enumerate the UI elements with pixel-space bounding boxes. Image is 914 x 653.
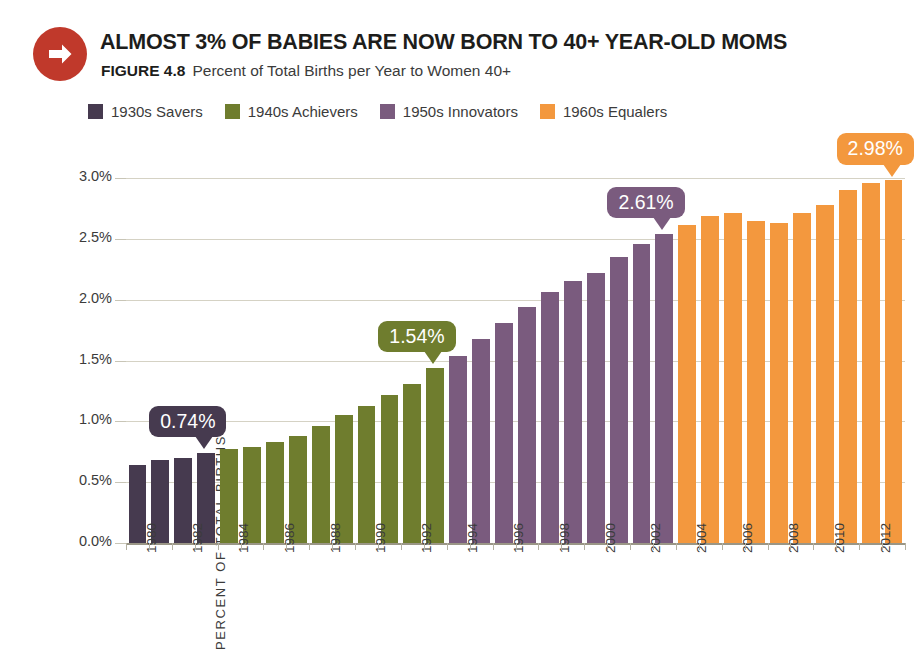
y-tick-mark	[115, 543, 126, 544]
bar[interactable]	[449, 356, 467, 543]
y-tick-label: 1.5%	[79, 351, 112, 367]
x-tick-label: 1988	[328, 523, 343, 553]
x-tick-mark	[172, 543, 173, 550]
legend-label: 1950s Innovators	[403, 103, 518, 120]
x-tick-mark	[722, 543, 723, 550]
x-tick-label: 2010	[832, 523, 847, 553]
bar[interactable]	[655, 234, 673, 543]
bar[interactable]	[701, 216, 719, 543]
callout-tail-icon	[883, 164, 901, 177]
page-title: ALMOST 3% OF BABIES ARE NOW BORN TO 40+ …	[100, 30, 787, 55]
x-tick-label: 1980	[144, 523, 159, 553]
x-tick-label: 1990	[373, 523, 388, 553]
bar[interactable]	[724, 213, 742, 543]
x-tick-label: 1992	[419, 523, 434, 553]
x-tick-mark	[676, 543, 677, 550]
x-axis: 1980198219841986198819901992199419961998…	[126, 543, 905, 586]
y-axis-tick-labels: 0.0%0.5%1.0%1.5%2.0%2.5%3.0%	[40, 178, 112, 543]
x-tick-mark	[630, 543, 631, 550]
y-tick-label: 3.0%	[79, 168, 112, 184]
bar[interactable]	[587, 273, 605, 543]
bar[interactable]	[541, 292, 559, 543]
bar[interactable]	[381, 395, 399, 543]
x-tick-mark	[561, 543, 562, 550]
x-tick-mark	[149, 543, 150, 550]
y-tick-label: 2.5%	[79, 229, 112, 245]
x-tick-label: 1984	[236, 523, 251, 553]
legend-label: 1940s Achievers	[248, 103, 358, 120]
callout-tail-icon	[195, 436, 213, 449]
chart-legend: 1930s Savers1940s Achievers1950s Innovat…	[88, 103, 667, 120]
x-tick-label: 1996	[511, 523, 526, 553]
bar-series	[126, 178, 905, 543]
bar[interactable]	[885, 180, 903, 543]
x-tick-mark	[836, 543, 837, 550]
bar[interactable]	[610, 257, 628, 543]
callout-tail-icon	[653, 217, 671, 230]
bar[interactable]	[518, 307, 536, 543]
x-tick-mark	[332, 543, 333, 550]
x-tick-mark	[286, 543, 287, 550]
value-callout: 1.54%	[378, 321, 455, 352]
bar[interactable]	[678, 225, 696, 543]
x-tick-label: 1994	[465, 523, 480, 553]
bar[interactable]	[403, 384, 421, 543]
bar[interactable]	[426, 368, 444, 543]
x-tick-mark	[424, 543, 425, 550]
figure-number: FIGURE 4.8	[101, 62, 185, 79]
y-tick-mark	[115, 178, 126, 179]
x-tick-mark	[584, 543, 585, 550]
bar[interactable]	[472, 339, 490, 543]
x-tick-label: 1998	[557, 523, 572, 553]
x-tick-mark	[401, 543, 402, 550]
x-tick-mark	[790, 543, 791, 550]
x-tick-label: 2012	[878, 523, 893, 553]
arrow-right-circle-icon	[33, 27, 87, 81]
bar[interactable]	[862, 183, 880, 543]
x-tick-label: 2006	[740, 523, 755, 553]
y-tick-mark	[115, 361, 126, 362]
x-tick-mark	[126, 543, 127, 550]
bar[interactable]	[816, 205, 834, 543]
x-tick-mark	[195, 543, 196, 550]
value-callout: 2.98%	[837, 133, 914, 164]
x-tick-mark	[263, 543, 264, 550]
legend-swatch-icon	[540, 104, 555, 119]
x-tick-mark	[378, 543, 379, 550]
x-tick-mark	[905, 543, 906, 550]
bar[interactable]	[495, 323, 513, 543]
bar[interactable]	[839, 190, 857, 543]
y-tick-label: 2.0%	[79, 290, 112, 306]
legend-swatch-icon	[380, 104, 395, 119]
x-tick-mark	[699, 543, 700, 550]
bar[interactable]	[564, 281, 582, 543]
x-tick-label: 2008	[786, 523, 801, 553]
x-tick-label: 2000	[603, 523, 618, 553]
legend-item: 1930s Savers	[88, 103, 203, 120]
y-axis-title-wrapper: PERCENT OF TOTAL BIRTHS	[36, 178, 37, 543]
legend-label: 1960s Equalers	[563, 103, 667, 120]
bar[interactable]	[747, 221, 765, 543]
x-tick-mark	[745, 543, 746, 550]
value-callout: 0.74%	[149, 406, 226, 437]
x-tick-label: 1982	[190, 523, 205, 553]
x-tick-mark	[516, 543, 517, 550]
legend-swatch-icon	[225, 104, 240, 119]
y-tick-mark	[115, 239, 126, 240]
bar[interactable]	[770, 223, 788, 543]
x-tick-mark	[493, 543, 494, 550]
x-tick-mark	[447, 543, 448, 550]
bar[interactable]	[633, 244, 651, 543]
y-tick-label: 0.0%	[79, 533, 112, 549]
x-tick-mark	[470, 543, 471, 550]
x-tick-label: 1986	[282, 523, 297, 553]
x-tick-mark	[241, 543, 242, 550]
x-tick-mark	[859, 543, 860, 550]
x-tick-mark	[538, 543, 539, 550]
y-tick-label: 0.5%	[79, 472, 112, 488]
bar[interactable]	[312, 426, 330, 543]
bar[interactable]	[793, 213, 811, 543]
x-tick-label: 2004	[694, 523, 709, 553]
legend-item: 1940s Achievers	[225, 103, 358, 120]
legend-swatch-icon	[88, 104, 103, 119]
